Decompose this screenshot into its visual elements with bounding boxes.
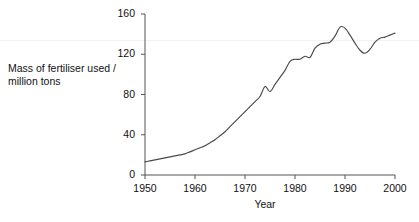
plot-area (0, 0, 419, 222)
data-series-line (145, 26, 395, 161)
axes-group (141, 14, 395, 179)
fertiliser-usage-line-chart: Mass of fertiliser used / million tons Y… (0, 0, 419, 222)
